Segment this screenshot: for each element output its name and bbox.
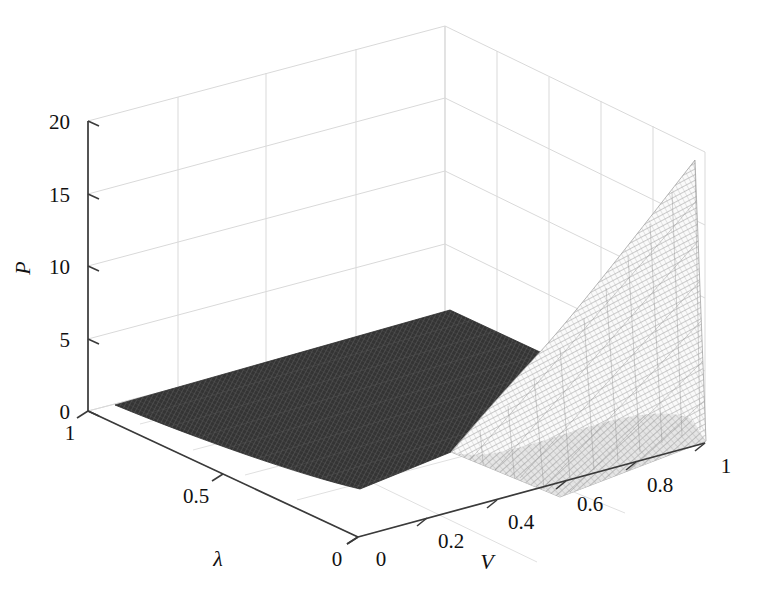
p-tick-20: 20 [49, 110, 70, 134]
p-tick-10: 10 [49, 255, 70, 279]
v-tick-08: 0.8 [647, 473, 673, 497]
lambda-tick-0: 0 [332, 547, 343, 571]
v-tick-02: 0.2 [438, 529, 464, 553]
lambda-axis-title: λ [212, 546, 223, 571]
v-tick-06: 0.6 [577, 492, 603, 516]
p-tick-15: 15 [49, 183, 70, 207]
plot-canvas: 20 15 10 5 0 P 1 0.5 0 λ 0 [0, 0, 758, 600]
surface-low-region [115, 306, 540, 493]
lambda-tick-05: 0.5 [183, 484, 209, 508]
v-tick-04: 0.4 [508, 510, 535, 534]
lambda-tick-1: 1 [65, 421, 76, 445]
p-axis-tick-labels: 20 15 10 5 0 [49, 110, 70, 424]
p-axis-ticks [88, 121, 99, 416]
p-tick-5: 5 [60, 328, 71, 352]
v-tick-0: 0 [376, 547, 387, 571]
v-tick-1: 1 [721, 454, 732, 478]
p-axis-title: P [10, 261, 35, 275]
v-axis-title: V [480, 549, 496, 574]
surface-plot-figure: 20 15 10 5 0 P 1 0.5 0 λ 0 [0, 0, 758, 600]
